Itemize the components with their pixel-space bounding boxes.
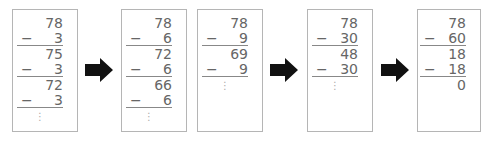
subtraction-box-1: 78 −3 75 −3 72 −3 ⋮ — [12, 9, 78, 132]
subtraction-box-3: 78 −9 69 −9 ⋮ — [197, 9, 263, 132]
number: 78 — [45, 15, 63, 31]
number: 75 — [45, 46, 63, 62]
minus-sign: − — [206, 31, 218, 46]
subtraction-box-4: 78 −30 48 −30 ⋮ — [307, 9, 373, 132]
minus-sign: − — [21, 93, 33, 108]
ellipsis: ⋮ — [202, 78, 248, 88]
result: 0 — [457, 77, 466, 93]
number: 72 — [154, 46, 172, 62]
subtract-row: −3 — [17, 93, 63, 108]
right-arrow-icon — [85, 58, 113, 82]
minus-sign: − — [424, 31, 436, 46]
subtrahend: 18 — [448, 61, 466, 77]
minus-sign: − — [316, 31, 328, 46]
subtrahend: 60 — [448, 30, 466, 46]
subtraction-box-5: 78 −60 18 −18 0 — [417, 9, 481, 132]
subtract-row: −6 — [126, 93, 172, 108]
subtract-row: −6 — [126, 31, 172, 46]
ellipsis: ⋮ — [312, 78, 358, 88]
number-row: 78 — [126, 16, 172, 31]
subtract-row: −3 — [17, 31, 63, 46]
subtract-row: −3 — [17, 62, 63, 77]
minus-sign: − — [316, 62, 328, 77]
subtrahend: 30 — [340, 30, 358, 46]
minus-sign: − — [21, 62, 33, 77]
number: 78 — [340, 15, 358, 31]
subtract-row: −60 — [420, 31, 466, 46]
number-row: 48 — [312, 47, 358, 62]
number: 18 — [448, 46, 466, 62]
subtract-row: −9 — [202, 62, 248, 77]
subtrahend: 6 — [163, 92, 172, 108]
number: 69 — [230, 46, 248, 62]
number: 66 — [154, 77, 172, 93]
subtract-row: −30 — [312, 31, 358, 46]
subtract-row: −6 — [126, 62, 172, 77]
minus-sign: − — [130, 93, 142, 108]
number-row: 72 — [126, 47, 172, 62]
minus-sign: − — [424, 62, 436, 77]
subtraction-column: 78 −9 69 −9 ⋮ — [202, 16, 248, 88]
number-row: 78 — [312, 16, 358, 31]
result-row: 0 — [420, 78, 466, 93]
ellipsis: ⋮ — [17, 109, 63, 119]
number: 78 — [154, 15, 172, 31]
subtrahend: 6 — [163, 61, 172, 77]
number: 48 — [340, 46, 358, 62]
number: 72 — [45, 77, 63, 93]
minus-sign: − — [130, 31, 142, 46]
subtrahend: 30 — [340, 61, 358, 77]
subtrahend: 9 — [239, 61, 248, 77]
subtraction-column: 78 −3 75 −3 72 −3 ⋮ — [17, 16, 63, 119]
subtract-row: −18 — [420, 62, 466, 77]
ellipsis: ⋮ — [126, 109, 172, 119]
subtraction-column: 78 −30 48 −30 ⋮ — [312, 16, 358, 88]
number-row: 69 — [202, 47, 248, 62]
subtraction-box-2: 78 −6 72 −6 66 −6 ⋮ — [121, 9, 187, 132]
subtraction-column: 78 −6 72 −6 66 −6 ⋮ — [126, 16, 172, 119]
minus-sign: − — [206, 62, 218, 77]
number: 78 — [230, 15, 248, 31]
number-row: 72 — [17, 78, 63, 93]
number-row: 78 — [202, 16, 248, 31]
minus-sign: − — [130, 62, 142, 77]
number-row: 78 — [420, 16, 466, 31]
subtrahend: 6 — [163, 30, 172, 46]
subtrahend: 3 — [54, 92, 63, 108]
number-row: 18 — [420, 47, 466, 62]
subtract-row: −30 — [312, 62, 358, 77]
subtrahend: 3 — [54, 30, 63, 46]
number-row: 75 — [17, 47, 63, 62]
number-row: 78 — [17, 16, 63, 31]
subtrahend: 9 — [239, 30, 248, 46]
subtraction-column: 78 −60 18 −18 0 — [420, 16, 466, 93]
subtrahend: 3 — [54, 61, 63, 77]
right-arrow-icon — [270, 58, 298, 82]
number-row: 66 — [126, 78, 172, 93]
number: 78 — [448, 15, 466, 31]
right-arrow-icon — [381, 58, 409, 82]
subtract-row: −9 — [202, 31, 248, 46]
minus-sign: − — [21, 31, 33, 46]
